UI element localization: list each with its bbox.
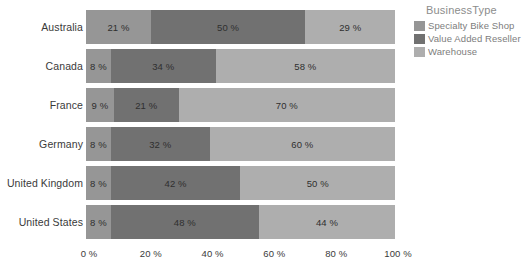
- bar-segment[interactable]: 8 %: [86, 205, 111, 239]
- category-label: Germany: [0, 138, 86, 150]
- legend-item-label: Specialty Bike Shop: [428, 20, 514, 31]
- category-label: United Kingdom: [0, 177, 86, 189]
- bar-track: 8 %48 %44 %: [86, 205, 395, 239]
- bar-row: Germany8 %32 %60 %: [0, 127, 400, 161]
- bar-row: United Kingdom8 %42 %50 %: [0, 166, 400, 200]
- bar-row: United States8 %48 %44 %: [0, 205, 400, 239]
- bar-segment[interactable]: 58 %: [216, 49, 395, 83]
- bar-segment-label: 70 %: [276, 100, 298, 111]
- stacked-bar-chart: Australia21 %50 %29 %Canada8 %34 %58 %Fr…: [0, 0, 526, 277]
- bar-segment-label: 48 %: [174, 217, 196, 228]
- bar-segment[interactable]: 21 %: [86, 10, 151, 44]
- plot-area: Australia21 %50 %29 %Canada8 %34 %58 %Fr…: [0, 0, 400, 277]
- bar-segment[interactable]: 8 %: [86, 49, 111, 83]
- bar-segment-label: 21 %: [107, 22, 129, 33]
- x-axis-tick-label: 100 %: [384, 248, 411, 259]
- bar-row: Canada8 %34 %58 %: [0, 49, 400, 83]
- x-axis-tick-label: 80 %: [325, 248, 347, 259]
- bar-segment[interactable]: 60 %: [210, 127, 395, 161]
- category-label: United States: [0, 216, 86, 228]
- bar-segment-label: 42 %: [165, 178, 187, 189]
- legend-item-list: Specialty Bike ShopValue Added ResellerW…: [414, 20, 526, 57]
- legend-item[interactable]: Warehouse: [414, 46, 526, 57]
- legend-swatch-icon: [414, 21, 425, 31]
- legend-title: BusinessType: [426, 4, 526, 16]
- bar-segment[interactable]: 42 %: [111, 166, 241, 200]
- bar-segment-label: 32 %: [149, 139, 171, 150]
- bar-segment-label: 60 %: [291, 139, 313, 150]
- bar-row: Australia21 %50 %29 %: [0, 10, 400, 44]
- bar-segment-label: 8 %: [90, 61, 107, 72]
- bar-track: 8 %32 %60 %: [86, 127, 395, 161]
- bar-segment[interactable]: 29 %: [305, 10, 395, 44]
- x-axis-tick-label: 20 %: [140, 248, 162, 259]
- bar-segment[interactable]: 8 %: [86, 166, 111, 200]
- bar-row: France9 %21 %70 %: [0, 88, 400, 122]
- bar-segment[interactable]: 21 %: [114, 88, 179, 122]
- bar-segment-label: 50 %: [217, 22, 239, 33]
- bar-segment-label: 58 %: [294, 61, 316, 72]
- bar-segment[interactable]: 44 %: [259, 205, 395, 239]
- bar-segment-label: 21 %: [135, 100, 157, 111]
- legend-swatch-icon: [414, 47, 425, 57]
- bar-segment-label: 8 %: [90, 139, 107, 150]
- bar-track: 8 %34 %58 %: [86, 49, 395, 83]
- bar-track: 21 %50 %29 %: [86, 10, 395, 44]
- legend-item-label: Warehouse: [428, 46, 477, 57]
- bar-segment-label: 44 %: [316, 217, 338, 228]
- bar-segment[interactable]: 32 %: [111, 127, 210, 161]
- bar-segment-label: 34 %: [152, 61, 174, 72]
- bar-segment[interactable]: 34 %: [111, 49, 216, 83]
- bar-segment[interactable]: 9 %: [86, 88, 114, 122]
- legend-item[interactable]: Specialty Bike Shop: [414, 20, 526, 31]
- x-axis-tick-label: 0 %: [81, 248, 98, 259]
- bar-segment-label: 8 %: [90, 178, 107, 189]
- x-axis: 0 %20 %40 %60 %80 %100 %: [89, 246, 398, 266]
- bar-segment[interactable]: 50 %: [151, 10, 306, 44]
- category-label: Canada: [0, 60, 86, 72]
- bar-segment[interactable]: 8 %: [86, 127, 111, 161]
- bar-track: 8 %42 %50 %: [86, 166, 395, 200]
- bar-track: 9 %21 %70 %: [86, 88, 395, 122]
- legend-item[interactable]: Value Added Reseller: [414, 33, 526, 44]
- chart-legend: BusinessType Specialty Bike ShopValue Ad…: [414, 4, 526, 59]
- x-axis-tick-label: 40 %: [202, 248, 224, 259]
- bar-segment-label: 9 %: [92, 100, 109, 111]
- category-label: Australia: [0, 21, 86, 33]
- category-label: France: [0, 99, 86, 111]
- bar-segment-label: 50 %: [307, 178, 329, 189]
- bar-segment-label: 8 %: [90, 217, 107, 228]
- bar-segment[interactable]: 50 %: [240, 166, 395, 200]
- bar-segment-label: 29 %: [339, 22, 361, 33]
- legend-item-label: Value Added Reseller: [428, 33, 521, 44]
- legend-swatch-icon: [414, 34, 425, 44]
- x-axis-tick-label: 60 %: [263, 248, 285, 259]
- bar-segment[interactable]: 70 %: [179, 88, 395, 122]
- bar-segment[interactable]: 48 %: [111, 205, 259, 239]
